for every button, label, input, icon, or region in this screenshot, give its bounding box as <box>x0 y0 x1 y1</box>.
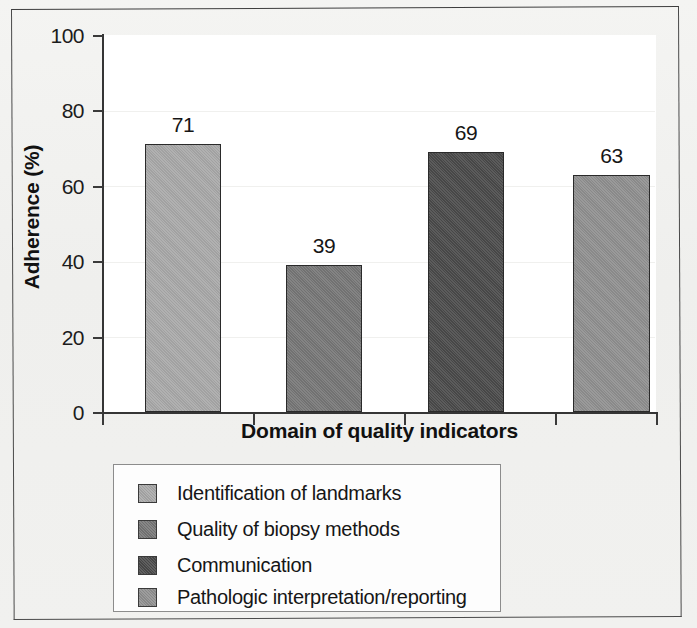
y-axis-tick <box>93 35 103 37</box>
legend-swatch-icon <box>138 484 157 503</box>
bar-value-label: 63 <box>573 144 650 168</box>
legend-item-label: Identification of landmarks <box>177 482 401 505</box>
bar-value-label: 69 <box>428 121 504 145</box>
y-axis-tick-label: 0 <box>38 401 84 425</box>
y-axis-tick-label: 60 <box>38 175 84 199</box>
legend-item-identification-of-landmarks: Identification of landmarks <box>138 479 401 507</box>
x-axis-line <box>102 412 658 414</box>
legend-swatch-icon <box>138 556 157 575</box>
bar-communication <box>428 152 504 412</box>
bar-pathologic-interpretation-reporting <box>573 175 650 412</box>
y-axis-tick-label: 80 <box>38 99 84 123</box>
y-axis-tick-label: 40 <box>38 250 84 274</box>
legend-swatch-icon <box>138 588 157 607</box>
legend-swatch-icon <box>138 520 157 539</box>
legend-item-quality-of-biopsy-methods: Quality of biopsy methods <box>138 515 400 543</box>
bar-value-label: 39 <box>286 234 362 258</box>
y-axis-tick-label: 100 <box>38 24 84 48</box>
bar-value-label: 71 <box>145 113 221 137</box>
legend-item-label: Quality of biopsy methods <box>177 518 400 541</box>
y-axis-tick <box>93 110 103 112</box>
x-axis-title: Domain of quality indicators <box>103 419 656 443</box>
bar-quality-of-biopsy-methods <box>286 265 362 412</box>
gridline <box>104 111 655 112</box>
y-axis-line <box>102 34 104 414</box>
figure-page: 100 80 60 40 20 0 71 39 69 63 Adherence … <box>0 0 697 628</box>
legend-item-communication: Communication <box>138 551 312 579</box>
x-axis-tick <box>656 414 658 425</box>
legend: Identification of landmarks Quality of b… <box>113 464 501 612</box>
legend-item-label: Communication <box>177 554 312 577</box>
y-axis-title: Adherence (%) <box>20 117 44 317</box>
bar-identification-of-landmarks <box>145 144 221 412</box>
y-axis-tick <box>93 186 103 188</box>
legend-item-pathologic-interpretation-reporting: Pathologic interpretation/reporting <box>138 583 467 611</box>
y-axis-tick <box>93 337 103 339</box>
legend-item-label: Pathologic interpretation/reporting <box>177 586 467 609</box>
y-axis-tick <box>93 261 103 263</box>
y-axis-tick-label: 20 <box>38 326 84 350</box>
